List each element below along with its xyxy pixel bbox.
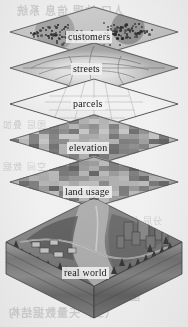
layer-label-customers: customers	[66, 31, 112, 43]
layer-label-streets: streets	[71, 63, 102, 75]
layer-label-parcels: parcels	[71, 98, 105, 110]
base-label-real-world: real world	[62, 267, 109, 279]
figure-canvas: 人口 地理 信息 系统 图层 叠加 空间 数据 分层 模型 图层模型 （三）矢量…	[0, 0, 188, 327]
layer-label-elevation: elevation	[67, 142, 109, 154]
real-world-block[interactable]	[4, 196, 184, 324]
